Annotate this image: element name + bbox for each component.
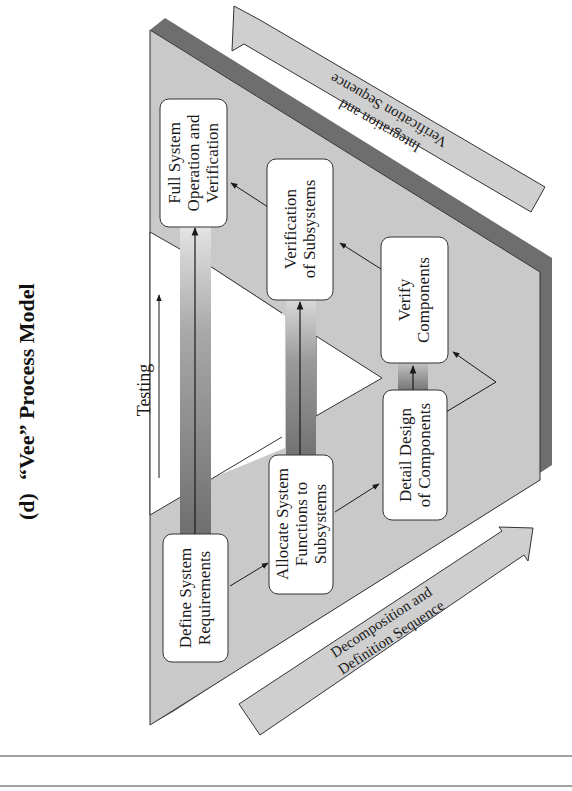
vee-diagram-canvas: (d) “Vee” Process Model Integration and …	[0, 0, 572, 791]
box-detail-design-components[interactable]: Detail Design of Components	[383, 390, 447, 520]
box-text-line: of Subsystems	[300, 180, 319, 279]
testing-label: Testing	[134, 364, 154, 417]
box-text-line: Full System	[165, 122, 184, 204]
figure-title: (d) “Vee” Process Model	[14, 283, 39, 520]
box-text-line: Functions to	[292, 482, 311, 567]
box-text-line: Requirements	[195, 551, 214, 645]
box-text-line: Define System	[176, 548, 195, 649]
box-text-line: Allocate System	[273, 468, 292, 580]
box-text-line: Operation and	[184, 114, 203, 211]
box-text-line: Components	[414, 257, 433, 343]
figure-title-text: “Vee” Process Model	[14, 283, 39, 480]
box-text-line: Verify	[395, 278, 414, 321]
box-text-line: Detail Design	[396, 408, 415, 502]
box-verify-components[interactable]: Verify Components	[381, 237, 448, 363]
box-text-line: Verification	[203, 122, 222, 203]
box-text-line: Subsystems	[311, 484, 330, 564]
box-text-line: of Components	[415, 403, 434, 507]
box-allocate-system-functions[interactable]: Allocate System Functions to Subsystems	[269, 455, 333, 594]
figure-label: (d)	[14, 493, 39, 520]
box-full-system-operation[interactable]: Full System Operation and Verification	[160, 99, 227, 227]
testing-bar-subsystem	[286, 300, 316, 455]
box-text-line: Verification	[281, 188, 300, 269]
box-verification-subsystems[interactable]: Verification of Subsystems	[267, 159, 333, 300]
box-define-system-requirements[interactable]: Define System Requirements	[163, 534, 228, 662]
